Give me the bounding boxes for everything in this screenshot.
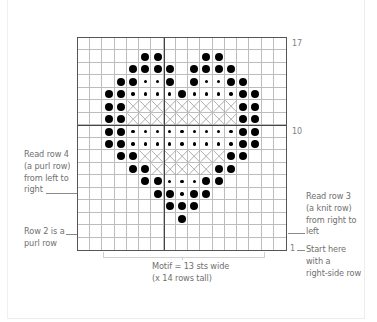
chart-cell [274, 188, 286, 200]
large-dot-icon [117, 103, 125, 111]
chart-cell [237, 225, 249, 237]
chart-cell [213, 213, 225, 225]
chart-cell [90, 63, 102, 75]
chart-cell [164, 38, 176, 50]
small-dot-icon [131, 130, 134, 133]
annotation-line: Read row 4 [24, 149, 70, 161]
chart-cell [176, 75, 188, 87]
chart-cell [225, 238, 237, 250]
annotation-line: Start here [306, 244, 361, 256]
large-dot-icon [141, 53, 149, 61]
chart-cell [262, 125, 274, 137]
chart-cell [115, 63, 127, 75]
large-dot-icon [105, 103, 113, 111]
large-dot-icon [154, 65, 162, 73]
cross-icon [164, 113, 176, 125]
chart-cell [127, 225, 139, 237]
chart-cell [90, 50, 102, 62]
chart-cell [274, 163, 286, 175]
large-dot-icon [166, 65, 174, 73]
large-dot-icon [117, 90, 125, 98]
chart-cell [225, 38, 237, 50]
chart-cell [274, 238, 286, 250]
chart-cell [225, 200, 237, 212]
annotation-line: with a [306, 256, 361, 268]
annotation-line: from right to [306, 215, 356, 227]
large-dot-icon [166, 78, 174, 86]
chart-cell [127, 200, 139, 212]
chart-cell [213, 238, 225, 250]
large-dot-icon [117, 140, 125, 148]
cross-icon [151, 163, 163, 175]
chart-cell [102, 225, 114, 237]
chart-cell [115, 50, 127, 62]
chart-cell [237, 63, 249, 75]
chart-cell [151, 200, 163, 212]
chart-cell [188, 50, 200, 62]
chart-cell [200, 38, 212, 50]
cross-icon [176, 100, 188, 112]
chart-cell [90, 150, 102, 162]
chart-cell [127, 50, 139, 62]
large-dot-icon [190, 78, 198, 86]
row-label-10: 10 [292, 127, 302, 136]
small-dot-icon [193, 180, 196, 183]
chart-cell [78, 225, 90, 237]
cross-icon [213, 100, 225, 112]
chart-cell [274, 200, 286, 212]
chart-cell [274, 75, 286, 87]
annotation-line: Row 2 is a [24, 226, 65, 238]
chart-cell [102, 163, 114, 175]
chart-cell [176, 238, 188, 250]
cross-icon [213, 150, 225, 162]
chart-cell [164, 213, 176, 225]
bracket-center-tick [182, 257, 183, 260]
chart-cell [90, 75, 102, 87]
chart-cell [188, 225, 200, 237]
chart-cell [200, 225, 212, 237]
chart-cell [249, 75, 261, 87]
chart-cell [262, 188, 274, 200]
cross-icon [151, 113, 163, 125]
large-dot-icon [215, 165, 223, 173]
chart-cell [262, 213, 274, 225]
chart-cell [213, 38, 225, 50]
chart-cell [90, 113, 102, 125]
chart-cell [262, 38, 274, 50]
chart-cell [188, 213, 200, 225]
small-dot-icon [144, 142, 147, 145]
chart-cell [90, 175, 102, 187]
chart-cell [249, 38, 261, 50]
knitting-chart-grid [77, 37, 287, 251]
chart-cell [78, 50, 90, 62]
chart-cell [90, 188, 102, 200]
chart-cell [78, 238, 90, 250]
chart-cell [127, 188, 139, 200]
chart-cell [249, 225, 261, 237]
cross-icon [176, 163, 188, 175]
cross-icon [200, 163, 212, 175]
chart-cell [249, 213, 261, 225]
small-dot-icon [229, 142, 232, 145]
chart-cell [115, 175, 127, 187]
chart-cell [262, 88, 274, 100]
chart-cell [200, 213, 212, 225]
large-dot-icon [105, 140, 113, 148]
chart-cell [262, 163, 274, 175]
chart-cell [127, 213, 139, 225]
small-dot-icon [205, 142, 208, 145]
chart-cell [164, 50, 176, 62]
chart-cell [237, 200, 249, 212]
large-dot-icon [239, 78, 247, 86]
large-dot-icon [251, 103, 259, 111]
chart-cell [176, 225, 188, 237]
chart-cell [151, 225, 163, 237]
chart-cell [237, 238, 249, 250]
cross-icon [139, 150, 151, 162]
annotation-line: from left to [24, 173, 70, 185]
chart-cell [249, 150, 261, 162]
chart-cell [213, 200, 225, 212]
chart-cell [78, 75, 90, 87]
chart-cell [115, 188, 127, 200]
chart-cell [262, 175, 274, 187]
